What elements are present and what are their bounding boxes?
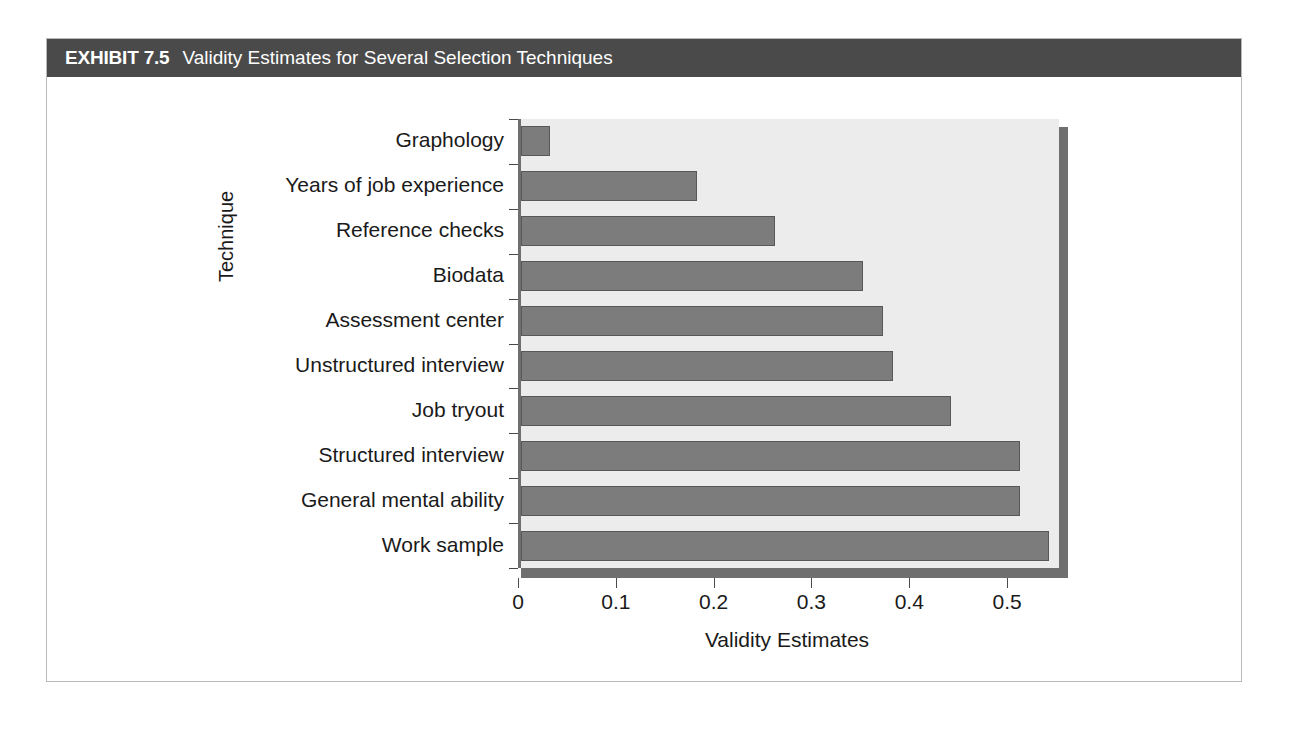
x-tick-label: 0.1	[601, 590, 630, 614]
category-label: Assessment center	[325, 308, 504, 332]
category-label: Work sample	[382, 533, 504, 557]
x-tick-label: 0.5	[992, 590, 1021, 614]
plot-panel	[518, 119, 1059, 568]
y-tick	[509, 209, 518, 210]
x-tick-label: 0.4	[895, 590, 924, 614]
category-label: Job tryout	[412, 398, 504, 422]
exhibit-number-label: EXHIBIT 7.5	[65, 47, 169, 69]
bar-years-of-job-experience	[521, 171, 697, 201]
category-label: Structured interview	[318, 443, 504, 467]
bar-unstructured-interview	[521, 351, 893, 381]
category-label: Graphology	[395, 128, 504, 152]
exhibit-title-bar: EXHIBIT 7.5 Validity Estimates for Sever…	[47, 39, 1241, 77]
x-axis-title: Validity Estimates	[518, 628, 1056, 652]
x-tick	[909, 578, 910, 588]
category-label: Unstructured interview	[295, 353, 504, 377]
x-tick	[811, 578, 812, 588]
x-tick	[616, 578, 617, 588]
y-tick	[509, 164, 518, 165]
x-tick	[1007, 578, 1008, 588]
x-tick	[518, 578, 519, 588]
plot-shadow-bottom	[521, 568, 1068, 578]
y-tick	[509, 568, 518, 569]
bar-assessment-center	[521, 306, 883, 336]
y-tick	[509, 523, 518, 524]
category-label: Years of job experience	[285, 173, 504, 197]
bar-general-mental-ability	[521, 486, 1020, 516]
y-tick	[509, 254, 518, 255]
bar-graphology	[521, 126, 550, 156]
bar-job-tryout	[521, 396, 951, 426]
x-tick	[714, 578, 715, 588]
category-label: General mental ability	[301, 488, 504, 512]
exhibit-frame: EXHIBIT 7.5 Validity Estimates for Sever…	[46, 38, 1242, 682]
bar-chart: GraphologyYears of job experienceReferen…	[47, 77, 1241, 683]
bar-structured-interview	[521, 441, 1020, 471]
x-tick-label: 0.2	[699, 590, 728, 614]
y-axis-title: Technique	[215, 191, 238, 282]
y-tick	[509, 388, 518, 389]
y-tick	[509, 433, 518, 434]
bar-biodata	[521, 261, 863, 291]
y-tick	[509, 119, 518, 120]
x-tick-label: 0.3	[797, 590, 826, 614]
category-label: Reference checks	[336, 218, 504, 242]
bar-reference-checks	[521, 216, 775, 246]
exhibit-title-text: Validity Estimates for Several Selection…	[182, 47, 612, 69]
x-tick-label: 0	[512, 590, 524, 614]
bar-work-sample	[521, 531, 1049, 561]
y-tick	[509, 478, 518, 479]
y-tick	[509, 299, 518, 300]
y-tick	[509, 344, 518, 345]
category-label: Biodata	[433, 263, 504, 287]
